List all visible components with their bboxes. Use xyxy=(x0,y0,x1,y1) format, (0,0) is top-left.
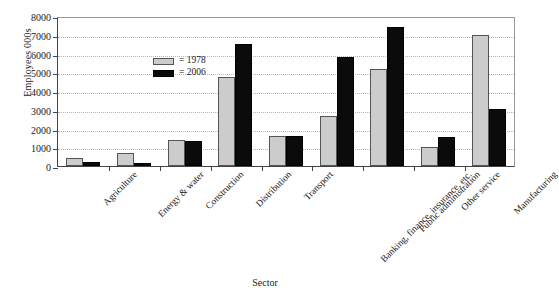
y-axis-tick-label: 4000 xyxy=(31,88,51,98)
bar-1978 xyxy=(218,77,235,166)
bar-group xyxy=(261,18,312,166)
x-axis-category-label: Energy & water xyxy=(157,170,206,219)
legend-label-2006: = 2006 xyxy=(179,68,206,78)
x-axis-category-labels: AgricultureEnergy & waterConstructionDis… xyxy=(57,170,515,265)
y-axis-tick-label: 5000 xyxy=(31,69,51,79)
bar-group xyxy=(463,18,514,166)
bar-2006 xyxy=(134,163,151,166)
y-axis-tick-label: 1000 xyxy=(31,144,51,154)
legend-item-1978: = 1978 xyxy=(153,55,206,67)
bar-2006 xyxy=(185,141,202,166)
bar-1978 xyxy=(168,140,185,166)
legend-swatch-1978 xyxy=(153,58,174,65)
plot-area: 010002000300040005000600070008000 = 1978… xyxy=(57,17,515,167)
bar-group xyxy=(413,18,464,166)
legend-label-1978: = 1978 xyxy=(179,56,206,66)
bar-1978 xyxy=(472,35,489,166)
bar-group xyxy=(210,18,261,166)
legend-item-2006: = 2006 xyxy=(153,67,206,79)
bars-layer xyxy=(58,18,514,166)
bar-2006 xyxy=(387,27,404,166)
y-axis-tick-label: 0 xyxy=(46,163,51,173)
y-axis-tick-label: 7000 xyxy=(31,32,51,42)
y-axis-tick-label: 8000 xyxy=(31,13,51,23)
x-axis-category-label: Distribution xyxy=(255,170,294,209)
y-axis-tick-label: 3000 xyxy=(31,107,51,117)
bar-group xyxy=(58,18,109,166)
x-axis-category-label: Construction xyxy=(205,170,246,211)
bar-2006 xyxy=(438,137,455,166)
y-axis-tick xyxy=(53,168,58,169)
bar-1978 xyxy=(320,116,337,166)
legend: = 1978 = 2006 xyxy=(153,55,206,79)
legend-swatch-2006 xyxy=(153,70,174,77)
bar-group xyxy=(311,18,362,166)
bar-group xyxy=(362,18,413,166)
bar-1978 xyxy=(66,158,83,166)
bar-2006 xyxy=(286,136,303,166)
y-axis-tick-label: 6000 xyxy=(31,51,51,61)
x-axis-category-label: Agriculture xyxy=(101,170,139,208)
x-axis-title: Sector xyxy=(0,277,530,288)
bar-1978 xyxy=(421,147,438,166)
bar-2006 xyxy=(489,109,506,166)
bar-group xyxy=(109,18,160,166)
x-axis-category-label: Transport xyxy=(303,170,336,203)
bar-1978 xyxy=(117,153,134,166)
bar-1978 xyxy=(370,69,387,167)
bar-group xyxy=(159,18,210,166)
bar-2006 xyxy=(337,57,354,166)
bar-2006 xyxy=(235,44,252,166)
bar-1978 xyxy=(269,136,286,166)
y-axis-tick-label: 2000 xyxy=(31,126,51,136)
bar-2006 xyxy=(83,162,100,166)
x-axis-category-label: Manufacturing xyxy=(512,170,559,217)
